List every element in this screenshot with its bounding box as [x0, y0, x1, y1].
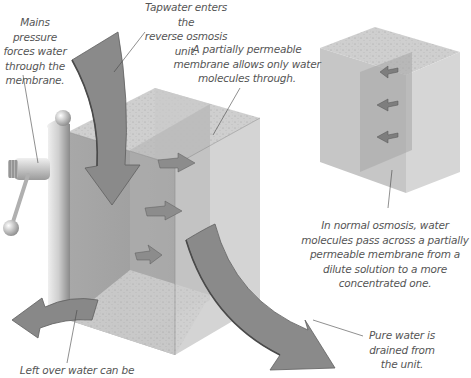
label-line: membrane allows only water	[172, 57, 322, 72]
label-line: forces water	[2, 44, 68, 59]
curved-arrow-left-icon	[12, 298, 98, 338]
label-line: Pure water is	[364, 328, 440, 343]
label-line: Mains pressure	[2, 15, 68, 44]
label-line: membrane.	[2, 73, 68, 88]
label-normal-osmosis: In normal osmosis, water molecules pass …	[300, 218, 470, 291]
label-line: permeable membrane from a	[300, 247, 470, 262]
label-line: In normal osmosis, water	[300, 218, 470, 233]
normal-osmosis-box	[320, 27, 460, 193]
leader-line-pure-water	[313, 320, 363, 336]
label-left-over: Left over water can be	[12, 363, 142, 378]
label-line: concentrated one.	[300, 276, 470, 291]
label-pure-water: Pure water is drained from the unit.	[364, 328, 440, 372]
label-line: A partially permeable	[172, 42, 322, 57]
label-line: dilute solution to a more	[300, 262, 470, 277]
label-membrane: A partially permeable membrane allows on…	[172, 42, 322, 86]
label-line: Tapwater enters the	[136, 0, 236, 29]
label-line: molecules pass across a partially	[300, 233, 470, 248]
label-line: drained from	[364, 343, 440, 358]
leader-line-mains	[23, 75, 38, 163]
label-line: through the	[2, 59, 68, 74]
end-plate	[47, 120, 70, 322]
label-line: Left over water can be	[12, 363, 142, 378]
label-mains-pressure: Mains pressure forces water through the …	[2, 15, 68, 88]
label-line: the unit.	[364, 357, 440, 372]
label-line: molecules through.	[172, 71, 322, 86]
